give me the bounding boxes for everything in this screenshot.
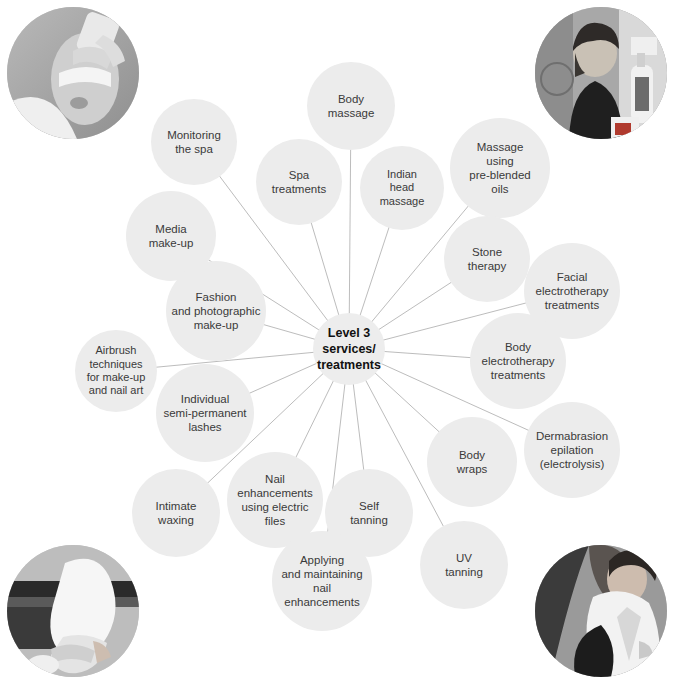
edge-hub-to-nail-enhancements-files bbox=[295, 380, 334, 459]
node-intimate-waxing[interactable]: Intimate waxing bbox=[132, 469, 220, 557]
edge-hub-to-individual-lashes bbox=[248, 363, 318, 394]
edge-hub-to-fashion-photographic bbox=[262, 324, 316, 339]
hub-node-level-3-services[interactable]: Level 3 services/ treatments bbox=[313, 313, 385, 385]
edge-hub-to-body-wraps bbox=[374, 372, 440, 433]
node-label-airbrush-techniques: Airbrush techniques for make-up and nail… bbox=[79, 344, 153, 398]
node-label-individual-lashes: Individual semi-permanent lashes bbox=[160, 392, 250, 434]
node-label-fashion-photographic: Fashion and photographic make-up bbox=[170, 290, 262, 332]
edge-hub-to-stone-therapy bbox=[377, 281, 452, 330]
node-label-uv-tanning: UV tanning bbox=[424, 551, 504, 579]
edge-hub-to-body-electrotherapy bbox=[383, 351, 472, 357]
edge-hub-to-spa-treatments bbox=[311, 221, 339, 316]
node-body-wraps[interactable]: Body wraps bbox=[427, 417, 517, 507]
node-label-indian-head-massage: Indian head massage bbox=[364, 168, 440, 208]
node-indian-head-massage[interactable]: Indian head massage bbox=[360, 146, 444, 230]
node-label-self-tanning: Self tanning bbox=[329, 499, 409, 527]
node-stone-therapy[interactable]: Stone therapy bbox=[444, 216, 530, 302]
hub-node-label: Level 3 services/ treatments bbox=[317, 325, 381, 374]
node-label-stone-therapy: Stone therapy bbox=[448, 245, 526, 273]
node-body-massage[interactable]: Body massage bbox=[307, 62, 395, 150]
node-label-massage-pre-blended-oils: Massage using pre-blended oils bbox=[454, 140, 546, 196]
photo-towel-hands bbox=[7, 545, 139, 677]
node-body-electrotherapy[interactable]: Body electrotherapy treatments bbox=[470, 313, 566, 409]
node-massage-pre-blended-oils[interactable]: Massage using pre-blended oils bbox=[450, 118, 550, 218]
node-monitoring-the-spa[interactable]: Monitoring the spa bbox=[151, 99, 237, 185]
node-airbrush-techniques[interactable]: Airbrush techniques for make-up and nail… bbox=[75, 330, 157, 412]
node-applying-maintaining[interactable]: Applying and maintaining nail enhancemen… bbox=[272, 531, 372, 631]
node-label-applying-maintaining: Applying and maintaining nail enhancemen… bbox=[276, 553, 368, 609]
edge-hub-to-indian-head-massage bbox=[360, 226, 390, 317]
node-label-spa-treatments: Spa treatments bbox=[260, 168, 338, 196]
node-dermabrasion-epilation[interactable]: Dermabrasion epilation (electrolysis) bbox=[524, 402, 620, 498]
node-fashion-photographic[interactable]: Fashion and photographic make-up bbox=[166, 261, 266, 361]
mind-map-canvas: Level 3 services/ treatmentsBody massage… bbox=[0, 0, 676, 686]
photo-treatment-couch bbox=[535, 545, 667, 677]
node-label-nail-enhancements-files: Nail enhancements using electric files bbox=[231, 472, 319, 528]
node-label-intimate-waxing: Intimate waxing bbox=[136, 499, 216, 527]
node-label-body-wraps: Body wraps bbox=[431, 448, 513, 476]
photo-facial-treatment bbox=[7, 7, 139, 139]
node-individual-lashes[interactable]: Individual semi-permanent lashes bbox=[156, 364, 254, 462]
node-label-dermabrasion-epilation: Dermabrasion epilation (electrolysis) bbox=[528, 429, 616, 471]
node-uv-tanning[interactable]: UV tanning bbox=[420, 521, 508, 609]
photo-therapist-products bbox=[535, 7, 667, 139]
edge-hub-to-self-tanning bbox=[353, 383, 364, 472]
node-label-monitoring-the-spa: Monitoring the spa bbox=[155, 128, 233, 156]
edge-hub-to-body-massage bbox=[349, 148, 350, 315]
node-spa-treatments[interactable]: Spa treatments bbox=[256, 139, 342, 225]
node-label-facial-electrotherapy: Facial electrotherapy treatments bbox=[528, 270, 616, 312]
node-label-body-electrotherapy: Body electrotherapy treatments bbox=[474, 340, 562, 382]
node-label-media-make-up: Media make-up bbox=[130, 222, 212, 250]
node-label-body-massage: Body massage bbox=[311, 92, 391, 120]
